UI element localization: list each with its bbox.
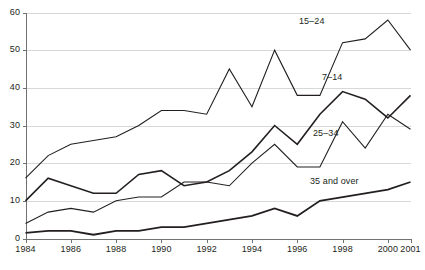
x-tick-label-1998: 1998	[326, 244, 360, 254]
x-tick-label-1984: 1984	[9, 244, 43, 254]
y-tick-label-20: 20	[0, 157, 20, 167]
y-tick-label-10: 10	[0, 195, 20, 205]
data-series-lines	[26, 20, 411, 235]
x-tick-label-1992: 1992	[190, 244, 224, 254]
y-tick-label-60: 60	[0, 7, 20, 17]
x-tick-label-1994: 1994	[235, 244, 269, 254]
y-tick-label-40: 40	[0, 82, 20, 92]
gridlines	[26, 14, 411, 202]
series-annotation-3: 35 and over	[310, 176, 359, 186]
y-tick-label-50: 50	[0, 44, 20, 54]
series-annotation-0: 15–24	[299, 16, 325, 26]
series-annotation-1: 7–14	[322, 72, 342, 82]
axis-lines	[26, 13, 411, 240]
series-line-25-34	[26, 114, 411, 223]
y-tick-label-0: 0	[0, 233, 20, 243]
y-tick-label-30: 30	[0, 120, 20, 130]
x-tick-label-1986: 1986	[54, 244, 88, 254]
series-annotation-2: 25–34	[313, 128, 339, 138]
x-tick-label-1996: 1996	[280, 244, 314, 254]
y-axis-ticks	[23, 14, 27, 240]
x-tick-label-1988: 1988	[99, 244, 133, 254]
x-tick-label-2001: 2001	[394, 244, 425, 254]
caption-sliver	[18, 263, 408, 270]
x-tick-label-1990: 1990	[144, 244, 178, 254]
series-line-15-24	[26, 20, 411, 178]
